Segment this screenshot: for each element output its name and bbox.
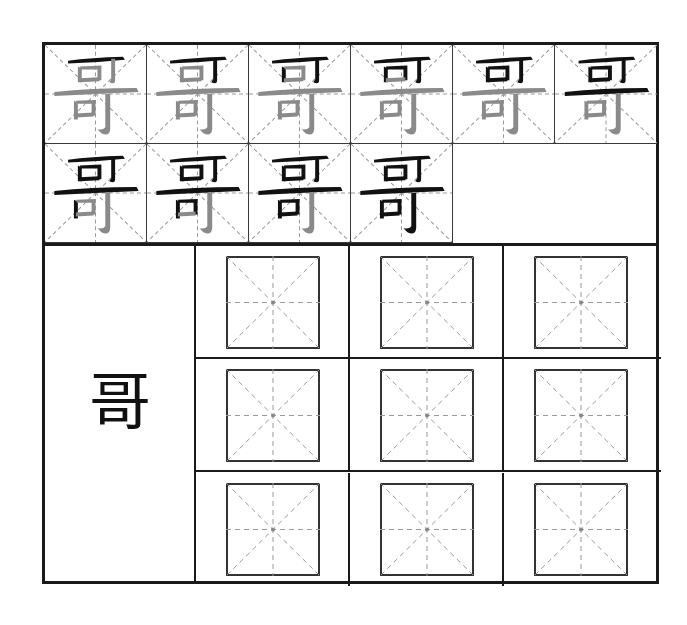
completed-stroke xyxy=(258,187,342,195)
remaining-stroke xyxy=(178,212,196,217)
practice-box[interactable] xyxy=(534,483,628,576)
completed-stroke xyxy=(415,158,421,183)
completed-stroke xyxy=(109,158,115,183)
mi-grid-guides xyxy=(226,369,320,462)
remaining-stroke xyxy=(608,94,621,135)
practice-cell[interactable] xyxy=(504,359,661,472)
stroke-step-cell xyxy=(249,45,351,144)
practice-cell[interactable] xyxy=(196,246,350,359)
remaining-stroke xyxy=(182,77,202,82)
remaining-stroke xyxy=(76,212,94,217)
remaining-stroke xyxy=(280,113,298,118)
remaining-stroke xyxy=(178,113,196,118)
practice-box[interactable] xyxy=(534,369,628,462)
completed-stroke xyxy=(272,156,329,163)
completed-stroke xyxy=(211,158,217,183)
remaining-stroke xyxy=(462,88,546,96)
model-character: 哥 xyxy=(45,368,194,438)
stroke-step-cell xyxy=(351,45,453,144)
practice-cell[interactable] xyxy=(504,473,661,586)
center-dot xyxy=(271,414,275,418)
practice-box[interactable] xyxy=(380,369,474,462)
mi-grid-guides xyxy=(380,483,474,576)
mi-grid-guides xyxy=(380,369,474,462)
center-dot xyxy=(425,414,429,418)
practice-box[interactable] xyxy=(534,256,628,349)
completed-stroke xyxy=(374,156,431,163)
practice-cell[interactable] xyxy=(504,246,661,359)
mi-grid-guides xyxy=(226,256,320,349)
completed-stroke xyxy=(156,187,240,195)
practice-box[interactable] xyxy=(226,256,320,349)
remaining-stroke xyxy=(109,59,115,84)
completed-stroke xyxy=(386,176,406,181)
completed-stroke xyxy=(360,187,444,195)
character-stroke-glyph xyxy=(147,45,248,143)
remaining-stroke xyxy=(199,193,212,234)
completed-stroke xyxy=(517,59,523,84)
completed-stroke xyxy=(382,212,400,217)
center-dot xyxy=(579,301,583,305)
character-stroke-glyph xyxy=(45,144,146,242)
practice-box[interactable] xyxy=(226,483,320,576)
completed-stroke xyxy=(170,57,227,64)
character-stroke-glyph xyxy=(147,144,248,242)
stroke-step-cell xyxy=(45,144,147,243)
practice-cell[interactable] xyxy=(350,246,504,359)
completed-stroke xyxy=(182,176,202,181)
stroke-step-cell xyxy=(147,144,249,243)
remaining-stroke xyxy=(403,94,416,135)
center-dot xyxy=(579,414,583,418)
model-character-cell: 哥 xyxy=(45,246,196,581)
remaining-stroke xyxy=(258,88,342,96)
mi-grid-guides xyxy=(380,256,474,349)
completed-stroke xyxy=(54,187,138,195)
remaining-stroke xyxy=(382,113,400,118)
practice-box[interactable] xyxy=(380,483,474,576)
stroke-step-cell xyxy=(45,45,147,144)
mi-grid-guides xyxy=(534,256,628,349)
completed-stroke xyxy=(374,57,431,64)
practice-box[interactable] xyxy=(380,256,474,349)
practice-cell[interactable] xyxy=(350,359,504,472)
completed-stroke xyxy=(68,156,125,163)
stroke-step-cell xyxy=(351,144,453,243)
remaining-stroke xyxy=(156,88,240,96)
completed-stroke xyxy=(476,57,533,64)
completed-stroke xyxy=(488,77,508,82)
stroke-step-cell xyxy=(453,45,555,144)
character-stroke-glyph xyxy=(453,45,554,143)
practice-cell[interactable] xyxy=(196,359,350,472)
remaining-stroke xyxy=(505,94,518,135)
stroke-order-grid xyxy=(45,45,656,243)
remaining-stroke xyxy=(360,88,444,96)
remaining-stroke xyxy=(586,113,604,118)
mi-grid-guides xyxy=(534,369,628,462)
practice-box[interactable] xyxy=(226,369,320,462)
blank-area xyxy=(453,144,656,243)
character-stroke-glyph xyxy=(351,144,452,242)
center-dot xyxy=(271,301,275,305)
center-dot xyxy=(271,527,275,531)
center-dot xyxy=(425,301,429,305)
remaining-stroke xyxy=(97,94,110,135)
completed-stroke xyxy=(313,158,319,183)
mi-grid-guides xyxy=(534,483,628,576)
character-stroke-glyph xyxy=(555,45,657,143)
completed-stroke xyxy=(68,57,125,64)
remaining-stroke xyxy=(301,193,314,234)
completed-stroke xyxy=(620,59,626,84)
remaining-stroke xyxy=(76,113,94,118)
character-stroke-glyph xyxy=(45,45,146,143)
character-stroke-glyph xyxy=(351,45,452,143)
completed-stroke xyxy=(80,176,100,181)
character-stroke-glyph xyxy=(249,45,350,143)
completed-stroke xyxy=(590,77,610,82)
stroke-step-cell xyxy=(555,45,657,144)
remaining-stroke xyxy=(386,77,406,82)
remaining-stroke xyxy=(484,113,502,118)
practice-cell[interactable] xyxy=(196,473,350,586)
stroke-step-cell xyxy=(147,45,249,144)
completed-stroke xyxy=(284,176,304,181)
practice-cell[interactable] xyxy=(350,473,504,586)
